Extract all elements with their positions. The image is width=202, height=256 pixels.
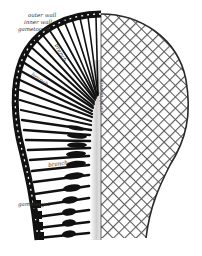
label-outer-wall: outer wall bbox=[28, 13, 56, 19]
alga-diagram: outer wall inner wall gametocyst branch … bbox=[0, 0, 202, 256]
label-inner-wall: inner wall bbox=[24, 20, 52, 26]
diagram-drawing bbox=[0, 0, 202, 256]
label-gametocyst-bottom: gametocyst bbox=[18, 202, 50, 208]
label-gametocyst-top: gametocyst bbox=[18, 27, 50, 33]
label-central-axis: central axis bbox=[99, 80, 105, 112]
surface-lattice bbox=[101, 14, 188, 238]
